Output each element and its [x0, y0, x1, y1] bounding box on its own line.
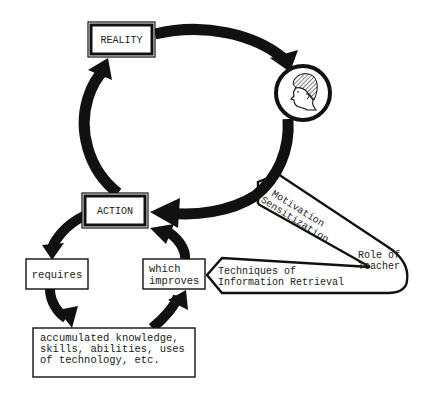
arrow-requires-to-knowledge: [50, 289, 78, 328]
node-knowledge: accumulated knowledge, skills, abilities…: [33, 328, 195, 377]
requires-label: requires: [32, 269, 82, 281]
arrow-improves-to-action: [150, 224, 185, 259]
node-which-improves: which improves: [143, 259, 205, 289]
arrow-reality-to-person: [155, 29, 298, 72]
action-label: ACTION: [97, 206, 133, 217]
arrow-action-to-requires: [42, 216, 84, 260]
teacher-label: Teacher: [358, 261, 400, 272]
person-head-icon: [291, 74, 317, 110]
reality-label: REALITY: [100, 35, 142, 46]
arrow-action-to-reality: [84, 58, 118, 193]
node-requires: requires: [26, 259, 88, 289]
techniques-line2: Information Retrieval: [218, 277, 344, 288]
arrow-person-to-action: [150, 119, 288, 228]
diagram-canvas: REALITY ACTION requires which improves: [0, 0, 431, 398]
role-of-label: Role of: [358, 250, 400, 261]
knowledge-line3: of technology, etc.: [40, 354, 160, 366]
node-role-of-teacher: Motivation Sensitization Techniques of I…: [207, 174, 407, 293]
arrow-knowledge-to-improves: [152, 290, 188, 328]
node-person: [276, 66, 330, 120]
branch-upper-text: Motivation Sensitization: [259, 185, 337, 245]
node-reality: REALITY: [88, 22, 155, 57]
which-improves-line1: which: [149, 263, 181, 275]
techniques-line1: Techniques of: [218, 266, 296, 277]
node-action: ACTION: [82, 193, 148, 228]
which-improves-line2: improves: [149, 275, 199, 287]
